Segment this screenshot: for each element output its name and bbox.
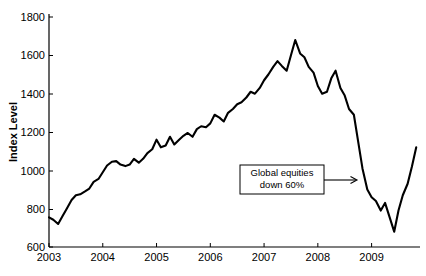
x-tick-label: 2003 <box>37 251 61 263</box>
annotation-text-line-1: Global equities <box>251 167 314 178</box>
x-tick-label: 2009 <box>359 251 383 263</box>
y-tick-label: 1600 <box>21 49 45 61</box>
y-tick-label: 1200 <box>21 126 45 138</box>
y-tick-label: 1800 <box>21 11 45 23</box>
x-tick-label: 2004 <box>91 251 115 263</box>
x-axis-tick-labels: 2003200420052006200720082009 <box>37 251 384 263</box>
x-tick-label: 2007 <box>252 251 276 263</box>
annotation-global-equities-down-60: Global equities down 60% <box>240 165 357 194</box>
y-axis-title: Index Level <box>7 102 19 162</box>
line-chart: Index Level 1800 1600 1400 1200 1000 800… <box>0 0 426 276</box>
x-tick-label: 2005 <box>144 251 168 263</box>
x-tick-label: 2008 <box>306 251 330 263</box>
annotation-text-line-2: down 60% <box>260 179 305 190</box>
chart-container: Index Level 1800 1600 1400 1200 1000 800… <box>0 0 426 276</box>
y-tick-label: 1000 <box>21 165 45 177</box>
x-tick-label: 2006 <box>198 251 222 263</box>
series-line-global-equity-index <box>49 40 416 232</box>
y-axis-tick-labels: 1800 1600 1400 1200 1000 800 600 <box>21 11 45 253</box>
y-tick-label: 800 <box>27 203 45 215</box>
y-tick-label: 1400 <box>21 88 45 100</box>
